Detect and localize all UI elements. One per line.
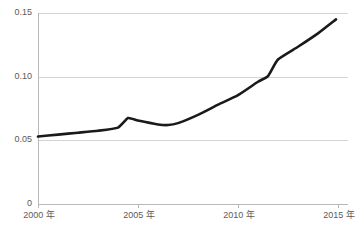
- chart-canvas: 0.150.100.050 2000 年2005 年2010 年2015 年: [0, 0, 357, 232]
- y-tick-label: 0.05: [14, 134, 32, 144]
- y-axis-labels-group: 0.150.100.050: [14, 7, 32, 208]
- y-tick-label: 0.15: [14, 7, 32, 17]
- x-tick-label: 2010 年: [223, 209, 255, 220]
- line-chart: 0.150.100.050 2000 年2005 年2010 年2015 年: [0, 0, 357, 232]
- x-tick-label: 2000 年: [23, 209, 55, 220]
- x-tick-label: 2015 年: [323, 209, 355, 220]
- x-axis-labels-group: 2000 年2005 年2010 年2015 年: [23, 209, 355, 220]
- axis-group: [38, 13, 348, 205]
- y-tick-label: 0.10: [14, 71, 32, 81]
- y-tick-label: 0: [27, 198, 32, 208]
- x-tick-label: 2005 年: [123, 209, 155, 220]
- gridlines-group: [38, 14, 348, 141]
